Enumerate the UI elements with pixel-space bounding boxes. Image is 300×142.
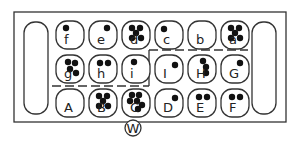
seed <box>204 94 210 100</box>
pit-label: B <box>97 100 106 115</box>
pit-C[interactable]: C <box>122 89 150 117</box>
pit-label: E <box>196 100 204 115</box>
left-store[interactable] <box>24 22 48 114</box>
pit-H[interactable]: H <box>188 55 216 83</box>
seed <box>237 35 243 41</box>
seed <box>73 70 79 76</box>
pit-g[interactable]: g <box>56 55 84 83</box>
seed <box>63 25 69 31</box>
seed <box>129 25 135 31</box>
pit-outline[interactable] <box>56 21 84 49</box>
seed <box>65 59 71 65</box>
pit-A[interactable]: A <box>56 89 84 117</box>
seed <box>72 60 78 66</box>
seed <box>104 25 110 31</box>
pit-label: c <box>163 32 170 47</box>
seed <box>172 62 178 68</box>
pit-outline[interactable] <box>155 55 183 83</box>
pit-I[interactable]: I <box>155 55 183 83</box>
pit-c[interactable]: c <box>155 21 183 49</box>
pit-b[interactable]: b <box>188 21 216 49</box>
seed <box>129 92 135 98</box>
seed <box>138 35 144 41</box>
pit-label: A <box>64 100 73 115</box>
pit-E[interactable]: E <box>188 89 216 117</box>
pit-label: C <box>130 100 139 115</box>
seed <box>200 58 206 64</box>
pit-h[interactable]: h <box>89 55 117 83</box>
pit-label: d <box>130 32 138 47</box>
pit-label: b <box>196 32 204 47</box>
seed <box>136 92 142 98</box>
pit-f[interactable]: f <box>56 21 84 49</box>
seed <box>104 93 110 99</box>
pit-e[interactable]: e <box>89 21 117 49</box>
pit-B[interactable]: B <box>89 89 117 117</box>
seed <box>137 25 143 31</box>
pit-D[interactable]: D <box>155 89 183 117</box>
pit-label: e <box>97 32 105 47</box>
pit-label: D <box>163 100 173 115</box>
pit-label: a <box>229 32 237 47</box>
pit-label: I <box>163 66 167 81</box>
pit-label: f <box>64 32 69 47</box>
pit-label: G <box>229 66 239 81</box>
game-board: fedcbaghiIHGABCDEF W <box>0 0 300 142</box>
player-marker-label: W <box>127 121 140 136</box>
pit-label: g <box>64 66 72 81</box>
pit-outline[interactable] <box>122 55 150 83</box>
pit-label: F <box>229 100 236 115</box>
seed <box>236 25 242 31</box>
pit-i[interactable]: i <box>122 55 150 83</box>
pit-G[interactable]: G <box>221 55 249 83</box>
seed <box>237 94 243 100</box>
seed <box>131 59 137 65</box>
right-store[interactable] <box>252 22 276 114</box>
pit-F[interactable]: F <box>221 89 249 117</box>
pit-label: H <box>196 66 206 81</box>
pit-a[interactable]: a <box>221 21 249 49</box>
seed <box>228 25 234 31</box>
pit-label: i <box>130 66 134 81</box>
pit-label: h <box>97 66 105 81</box>
seed <box>96 93 102 99</box>
pit-d[interactable]: d <box>122 21 150 49</box>
seed <box>105 60 111 66</box>
